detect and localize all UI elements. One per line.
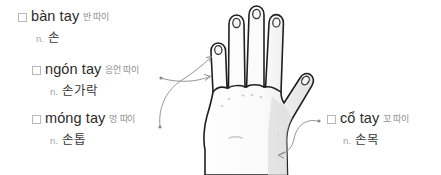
- vocab-entry-co-tay[interactable]: cổ tay 꼬 따이 n. 손목: [327, 111, 409, 147]
- vocab-meaning-row: n. 손가락: [32, 82, 139, 98]
- wrist-crease: [229, 137, 242, 138]
- term-text: bàn tay: [31, 9, 79, 24]
- meaning-text: 손가락: [62, 84, 98, 98]
- checkbox-ngon-tay[interactable]: [32, 66, 41, 75]
- vocab-term-row: bàn tay 반 따이: [18, 9, 109, 24]
- vocab-meaning-row: n. 손: [18, 29, 109, 45]
- fingernail-middle: [233, 18, 240, 27]
- part-of-speech: n.: [50, 86, 58, 97]
- vocab-entry-mong-tay[interactable]: móng tay 멍 따이 n. 손톱: [32, 111, 135, 147]
- vocab-meaning-row: n. 손목: [327, 131, 409, 147]
- hand-silhouette: [204, 6, 313, 175]
- meaning-text: 손톱: [62, 133, 86, 147]
- meaning-text: 손: [48, 31, 60, 45]
- knuckle-marks: [221, 94, 263, 107]
- vocab-meaning-row: n. 손톱: [32, 131, 135, 147]
- finger-gap-4: [266, 87, 281, 92]
- arrow-mong-tay: [158, 56, 211, 128]
- fingernail-ring: [253, 9, 261, 18]
- finger-gap-3: [247, 85, 264, 87]
- arrow-ngon-tay: [159, 75, 210, 82]
- vocab-term-row: móng tay 멍 따이: [32, 111, 135, 126]
- finger-gap-2: [229, 86, 246, 88]
- pronunciation-text: 응언 따이: [105, 66, 139, 75]
- pronunciation-text: 꼬 따이: [383, 115, 409, 124]
- vocab-entry-ngon-tay[interactable]: ngón tay 응언 따이 n. 손가락: [32, 62, 139, 98]
- part-of-speech: n.: [50, 135, 58, 146]
- palm-shadow: [268, 96, 292, 175]
- vocabulary-diagram-page: bàn tay 반 따이 n. 손 ngón tay 응언 따이 n. 손가락 …: [0, 0, 441, 175]
- fingernail-index: [214, 45, 222, 54]
- arrow-co-tay: [278, 119, 320, 158]
- pointer-arrows: [158, 56, 320, 158]
- vocab-entry-ban-tay[interactable]: bàn tay 반 따이 n. 손: [18, 9, 109, 45]
- fingernail-thumb: [300, 75, 311, 86]
- fingernail-pinky: [273, 18, 281, 27]
- checkbox-mong-tay[interactable]: [32, 115, 41, 124]
- term-text: cổ tay: [340, 111, 379, 126]
- vocab-term-row: ngón tay 응언 따이: [32, 62, 139, 77]
- finger-gap-1: [213, 87, 227, 92]
- checkbox-ban-tay[interactable]: [18, 13, 27, 22]
- pronunciation-text: 멍 따이: [109, 115, 135, 124]
- hand-outline-group: [204, 6, 313, 175]
- vocab-term-row: cổ tay 꼬 따이: [327, 111, 409, 126]
- term-text: ngón tay: [45, 62, 101, 77]
- part-of-speech: n.: [343, 135, 351, 146]
- meaning-text: 손목: [355, 133, 379, 147]
- palm-speck: [277, 134, 279, 136]
- term-text: móng tay: [45, 111, 105, 126]
- pronunciation-text: 반 따이: [83, 13, 109, 22]
- part-of-speech: n.: [36, 33, 44, 44]
- checkbox-co-tay[interactable]: [327, 115, 336, 124]
